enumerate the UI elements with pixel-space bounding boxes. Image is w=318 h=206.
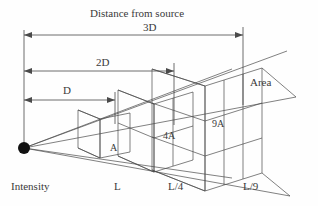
plane-9a-grid-h2 <box>205 138 262 156</box>
light-source-point <box>18 142 30 154</box>
plane-4a-depth-grid <box>118 123 154 138</box>
far-edge-lower <box>262 173 290 196</box>
intensity-value-l9: L/9 <box>243 181 258 192</box>
plane-9a-depth-edge-top <box>152 69 205 86</box>
area-label-a: A <box>110 143 117 153</box>
dimension-label-2d: 2D <box>96 57 109 68</box>
plane-4a-depth-edge-bottom <box>118 156 154 172</box>
dimension-label-d: D <box>63 85 71 96</box>
area-legend-label: Area <box>250 77 271 88</box>
diagram-canvas <box>0 0 318 206</box>
arrowhead-3d-right <box>235 32 243 38</box>
plane-a-back-face <box>78 110 100 158</box>
plane-9a-depth-grid-h1 <box>152 103 205 121</box>
plane-a-depth-edge-top <box>78 110 100 119</box>
inverse-square-law-diagram: Distance from source 3D 2D D Area 9A 4A … <box>0 0 318 206</box>
plane-9a-depth-grid-h2 <box>152 137 205 156</box>
arrowhead-d-left <box>24 97 32 103</box>
intensity-value-l: L <box>114 181 121 192</box>
arrowhead-3d-left <box>24 32 32 38</box>
dimension-label-3d: 3D <box>143 22 156 33</box>
arrowhead-2d-right <box>166 68 174 74</box>
intensity-value-l4: L/4 <box>168 181 183 192</box>
diagram-title: Distance from source <box>90 8 184 19</box>
plane-4a <box>118 90 193 172</box>
intensity-axis-label: Intensity <box>11 181 50 192</box>
arrowhead-d-right <box>107 97 115 103</box>
arrowhead-2d-left <box>24 68 32 74</box>
area-label-9a: 9A <box>212 119 224 129</box>
dimension-arrowheads <box>24 32 243 103</box>
dimension-lines <box>24 27 243 148</box>
plane-a <box>78 110 130 158</box>
plane-4a-depth-edge-top <box>118 90 154 104</box>
cone-ray-top-right <box>24 51 287 148</box>
light-cone-rays <box>24 51 296 196</box>
area-label-4a: 4A <box>163 131 175 141</box>
